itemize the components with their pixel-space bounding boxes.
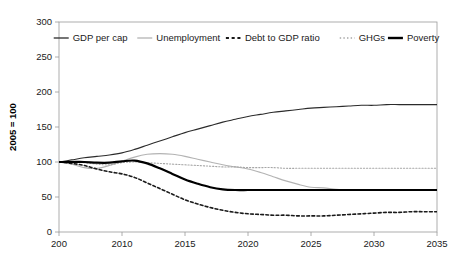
- y-tick-label: 150: [36, 121, 52, 132]
- x-tick-label: 2025: [300, 238, 321, 249]
- legend-label-gdp-per-cap: GDP per cap: [73, 32, 128, 43]
- y-axis-title: 2005 = 100: [7, 103, 18, 151]
- legend-label-unemployment: Unemployment: [156, 32, 220, 43]
- y-axis-ticks: 050100150200250300: [36, 16, 59, 237]
- legend-label-ghgs: GHGs: [359, 32, 386, 43]
- y-tick-label: 100: [36, 156, 52, 167]
- plot-frame: [59, 22, 437, 232]
- chart-legend: GDP per capUnemploymentDebt to GDP ratio…: [54, 32, 440, 43]
- legend-label-poverty: Poverty: [407, 32, 439, 43]
- y-tick-label: 300: [36, 16, 52, 27]
- y-tick-label: 250: [36, 51, 52, 62]
- x-axis-ticks: 200201020152020202520302035: [51, 232, 448, 249]
- chart-container: 050100150200250300 200201020152020202520…: [0, 0, 449, 254]
- x-tick-label: 2020: [237, 238, 258, 249]
- x-tick-label: 2035: [426, 238, 447, 249]
- x-tick-label: 200: [51, 238, 67, 249]
- x-tick-label: 2030: [363, 238, 384, 249]
- y-tick-label: 0: [47, 226, 52, 237]
- line-chart: 050100150200250300 200201020152020202520…: [0, 0, 449, 254]
- x-tick-label: 2015: [174, 238, 195, 249]
- y-tick-label: 50: [41, 191, 52, 202]
- plot-area-border: [59, 22, 437, 232]
- y-tick-label: 200: [36, 86, 52, 97]
- legend-label-debt-to-gdp-ratio: Debt to GDP ratio: [245, 32, 320, 43]
- x-tick-label: 2010: [111, 238, 132, 249]
